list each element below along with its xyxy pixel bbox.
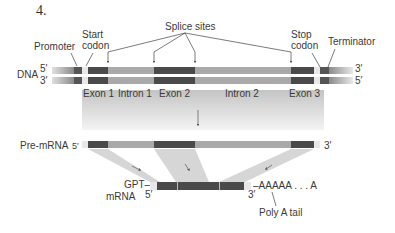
exon2-label: Exon 2	[159, 88, 191, 99]
poly-a-sequence: –AAAAA . . . A	[253, 180, 317, 191]
dna-bottom-5prime: 5′	[355, 75, 363, 86]
splicing-funnels	[88, 149, 314, 182]
mature-mrna-strand	[150, 182, 251, 190]
gpt-mrna-label-2: mRNA	[106, 191, 136, 202]
dna-top-5prime: 5′	[40, 63, 48, 74]
dna-bottom-3prime: 3′	[40, 75, 48, 86]
start-codon-label-2: codon	[82, 40, 109, 51]
promoter-label: Promoter	[34, 41, 76, 52]
intron1-label: Intron 1	[118, 88, 152, 99]
pre-mrna-5prime: 5′	[72, 141, 79, 151]
dna-top-strand	[52, 67, 353, 74]
exon3-label: Exon 3	[289, 88, 321, 99]
poly-a-leader	[272, 192, 276, 206]
stop-codon-label-1: Stop	[291, 29, 312, 40]
gene-expression-diagram: 4. Promoter Start codon Splice sites Sto…	[0, 0, 395, 233]
mrna-5prime: 5′	[145, 189, 153, 200]
terminator-label: Terminator	[328, 36, 376, 47]
figure-number: 4.	[36, 3, 47, 18]
pre-mrna-3prime: 3′	[324, 140, 332, 151]
pre-mrna-label: Pre-mRNA	[20, 140, 69, 151]
start-codon-label-1: Start	[82, 29, 103, 40]
exon1-label: Exon 1	[83, 88, 115, 99]
dna-label: DNA	[17, 69, 38, 80]
intron2-label: Intron 2	[225, 88, 259, 99]
pre-mrna-strand	[82, 141, 320, 148]
splice-sites-label: Splice sites	[165, 21, 216, 32]
dna-top-3prime: 3′	[355, 63, 363, 74]
poly-a-tail-label: Poly A tail	[259, 207, 302, 218]
dna-bottom-strand	[52, 77, 353, 84]
stop-codon-label-2: codon	[291, 40, 318, 51]
